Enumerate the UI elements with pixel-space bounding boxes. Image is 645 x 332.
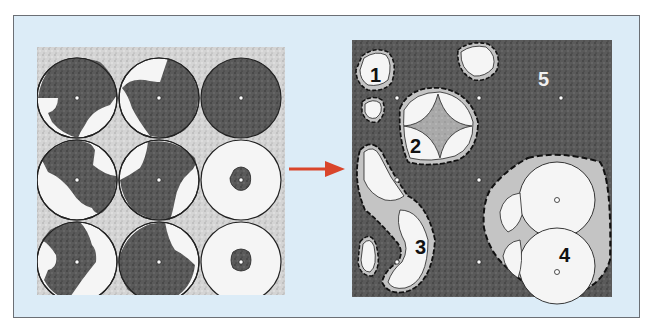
diagram-canvas: 1 2 3 4 5 xyxy=(0,0,645,332)
right-panel-sintered-structure: 1 2 3 4 5 xyxy=(352,40,612,304)
label-3: 3 xyxy=(415,236,426,258)
label-5: 5 xyxy=(538,68,549,90)
label-1: 1 xyxy=(370,64,381,86)
label-2: 2 xyxy=(410,135,421,157)
label-4: 4 xyxy=(559,244,571,266)
left-panel-initial-packing xyxy=(37,47,285,302)
transformation-arrow-icon xyxy=(289,161,345,177)
pore-small-bottom-left xyxy=(358,236,378,276)
